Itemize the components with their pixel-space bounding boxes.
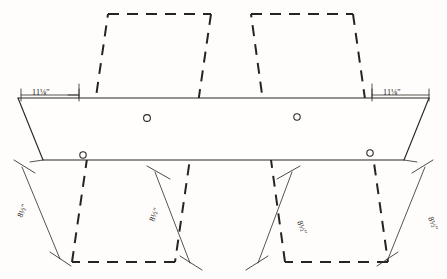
drawing-canvas: 11⅛″ 11⅛″ 8½″ 8½″ 8½″ 8½″: [0, 0, 447, 279]
dim-left-outer-extension: [30, 160, 43, 162]
dim-label-top-left: 11⅛″: [32, 88, 50, 97]
dim-left-inner-tick-end: [180, 256, 202, 270]
dim-right-inner-tick-end: [246, 256, 268, 270]
dim-left-outer-line: [22, 167, 60, 259]
hole-upper-left: [144, 115, 151, 122]
dim-label-right-outer: 8½″: [426, 215, 440, 231]
dim-left-outer-tick-end: [50, 252, 71, 266]
dim-right-outer-extension: [404, 160, 417, 162]
dim-right-outer-line: [388, 167, 425, 259]
hole-upper-right: [294, 114, 300, 120]
hole-lower-left: [80, 152, 86, 158]
dim-left-inner-tick-start: [147, 166, 170, 179]
dim-label-right-inner: 8½″: [295, 219, 309, 235]
dim-right-inner-tick-start: [277, 166, 300, 179]
dim-label-left-outer: 8½″: [16, 202, 30, 218]
technical-drawing-svg: 11⅛″ 11⅛″ 8½″ 8½″ 8½″ 8½″: [0, 0, 447, 279]
dim-left-inner-line: [155, 172, 190, 263]
dim-right-outer-tick-end: [377, 252, 398, 266]
dim-label-left-inner: 8½″: [148, 206, 162, 222]
hole-lower-right: [367, 150, 373, 156]
dim-label-top-right: 11⅛″: [383, 88, 401, 97]
